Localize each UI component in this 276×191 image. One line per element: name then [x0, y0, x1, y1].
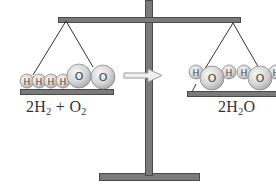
atom-symbol: H [24, 77, 31, 87]
reactants-label: 2H2 + O2 [26, 98, 87, 117]
atom-symbol: O [75, 70, 84, 83]
atom-symbol: H [48, 77, 55, 87]
reactant-molecules: HHHHOO [20, 64, 115, 89]
molecules: HHHHOO HHHHOO [0, 0, 276, 191]
atom-symbol: H [226, 68, 233, 78]
products-label: 2H2O [218, 98, 255, 117]
atom-symbol: H [241, 68, 248, 78]
products-label-part: O [243, 98, 255, 115]
atom-symbol: H [60, 77, 67, 87]
product-molecules: HHHHOO [189, 65, 276, 90]
subscript: 2 [81, 106, 86, 117]
atom-symbol: H [193, 68, 200, 78]
atom-symbol: H [36, 77, 43, 87]
atom-symbol: H [273, 68, 276, 78]
atom-symbol: O [99, 71, 108, 84]
atom-symbol: O [256, 72, 265, 85]
products-label-part: 2H [218, 98, 238, 115]
atom-symbol: O [208, 72, 217, 85]
reactants-label-part: 2H [26, 98, 46, 115]
reactants-label-part: + O [51, 98, 81, 115]
